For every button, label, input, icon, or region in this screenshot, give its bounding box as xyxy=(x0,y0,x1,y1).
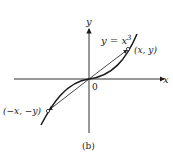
cubic-function-diagram: y x 0 y = x3 (x, y) (−x, −y) (b) xyxy=(0,0,173,158)
arrow-to-point-pos xyxy=(89,50,127,79)
point-pos-label: (x, y) xyxy=(134,45,157,55)
equation-label: y = x3 xyxy=(100,34,132,46)
y-axis-label: y xyxy=(85,16,92,27)
arrow-to-point-neg xyxy=(49,79,89,110)
origin-label: 0 xyxy=(92,82,98,92)
point-neg xyxy=(46,109,49,112)
point-neg-label: (−x, −y) xyxy=(3,106,41,116)
point-pos xyxy=(126,47,129,50)
x-axis-label: x xyxy=(163,74,169,85)
figure-caption: (b) xyxy=(82,141,95,151)
